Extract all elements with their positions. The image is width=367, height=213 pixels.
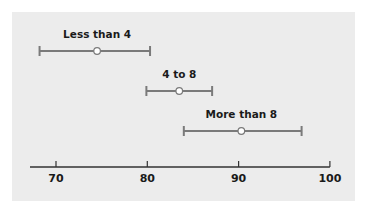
interval-label: Less than 4 <box>63 28 131 40</box>
axis-tick-label: 80 <box>140 172 156 185</box>
interval-center-marker <box>94 48 101 55</box>
interval-label: More than 8 <box>206 108 278 120</box>
axis-tick-label: 90 <box>231 172 247 185</box>
intervals-group: Less than 44 to 8More than 8 <box>40 28 302 136</box>
axis-tick-label: 100 <box>318 172 341 185</box>
interval-4-to-8: 4 to 8 <box>146 68 212 96</box>
x-axis: 708090100 <box>30 161 342 185</box>
interval-center-marker <box>238 128 245 135</box>
axis-tick-label: 70 <box>48 172 64 185</box>
interval-less-than-4: Less than 4 <box>40 28 150 56</box>
interval-label: 4 to 8 <box>162 68 196 80</box>
interval-center-marker <box>176 88 183 95</box>
interval-more-than-8: More than 8 <box>184 108 302 136</box>
interval-chart: Less than 44 to 8More than 8 708090100 <box>0 0 367 213</box>
